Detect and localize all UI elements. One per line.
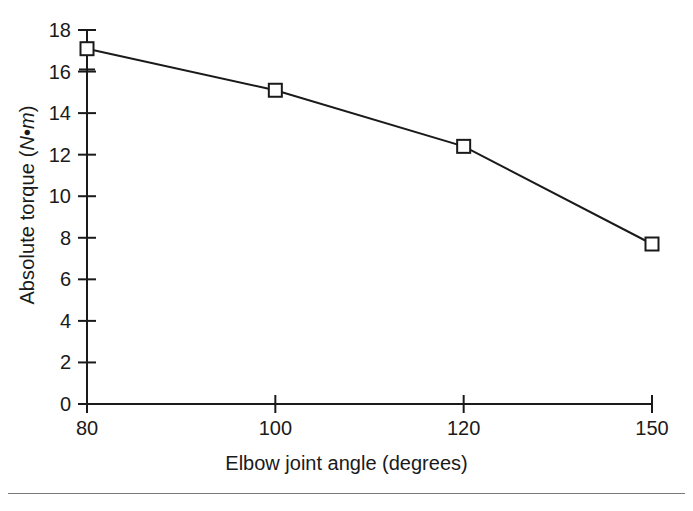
x-tick-label: 100 (240, 418, 310, 438)
y-tick-label: 0 (31, 394, 71, 414)
y-tick-label: 16 (31, 62, 71, 82)
y-tick-label: 4 (31, 311, 71, 331)
figure-container: Absolute torque (N • m) 024681012141618 … (0, 0, 693, 511)
y-tick-label: 6 (31, 269, 71, 289)
data-point-marker (269, 84, 282, 97)
y-tick-label: 14 (31, 103, 71, 123)
y-tick-label: 2 (31, 352, 71, 372)
y-tick-label: 10 (31, 186, 71, 206)
data-series-line (87, 49, 652, 244)
data-point-marker (81, 42, 94, 55)
axis-group (87, 30, 652, 404)
data-point-marker (646, 238, 659, 251)
x-tick-label: 80 (52, 418, 122, 438)
x-tick-label: 120 (429, 418, 499, 438)
y-tick-label: 8 (31, 228, 71, 248)
data-point-markers (81, 42, 659, 250)
y-tick-label: 12 (31, 145, 71, 165)
y-tick-label: 18 (31, 20, 71, 40)
plot-area: 024681012141618 80100120150 (0, 0, 693, 470)
x-axis-title: Elbow joint angle (degrees) (0, 452, 693, 475)
data-point-marker (457, 140, 470, 153)
x-tick-label: 150 (617, 418, 687, 438)
chart-svg (0, 0, 693, 470)
footer-divider (8, 493, 685, 494)
